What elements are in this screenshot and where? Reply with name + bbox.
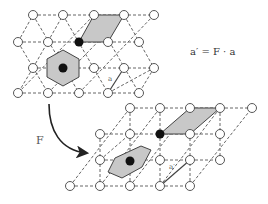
bottom-lattice-nodes xyxy=(66,104,257,191)
top-lattice xyxy=(18,15,154,93)
diagram-graphics xyxy=(0,0,268,204)
transformation-formula: a′ = F · a xyxy=(190,46,235,57)
vector-a-label: a xyxy=(108,75,112,83)
vector-a-prime xyxy=(160,160,190,186)
transform-label: F xyxy=(36,134,44,147)
bottom-lattice xyxy=(70,108,252,186)
bottom-origin-node xyxy=(156,130,165,139)
vector-a-prime-label: a′ xyxy=(169,163,175,171)
lattice-transformation-diagram: a′ = F · a F a a′ xyxy=(0,0,268,204)
transform-arrow xyxy=(49,104,86,153)
top-unit-cell xyxy=(79,15,124,42)
top-origin-node xyxy=(75,38,84,47)
